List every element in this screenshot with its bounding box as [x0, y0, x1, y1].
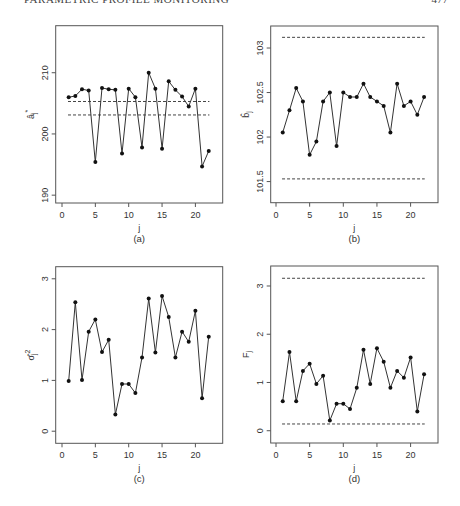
data-point — [402, 104, 406, 108]
x-tick-label: 20 — [190, 450, 200, 460]
y-tick-label: 1 — [255, 380, 265, 385]
x-axis-label: j — [352, 463, 355, 473]
data-point — [355, 95, 359, 99]
data-point — [207, 335, 211, 339]
plot-frame — [56, 267, 223, 444]
data-point — [180, 330, 184, 334]
data-point — [341, 91, 345, 95]
x-tick-label: 0 — [273, 450, 278, 460]
data-point — [167, 315, 171, 319]
x-tick-label: 5 — [93, 450, 98, 460]
data-point — [67, 379, 71, 383]
y-tick-label: 101.5 — [255, 170, 265, 193]
data-point — [133, 95, 137, 99]
y-tick-label: 3 — [40, 276, 50, 281]
data-point — [120, 382, 124, 386]
data-point — [133, 391, 137, 395]
panel-caption: (b) — [349, 233, 361, 244]
y-tick-label: 102.5 — [255, 81, 265, 104]
data-point — [147, 71, 151, 75]
data-point — [415, 113, 419, 117]
data-point — [314, 140, 318, 144]
x-tick-label: 15 — [157, 450, 167, 460]
x-tick-label: 20 — [406, 450, 416, 460]
y-tick-label: 0 — [40, 429, 50, 434]
series-line — [69, 73, 209, 167]
data-point — [73, 300, 77, 304]
y-tick-label: 190 — [40, 188, 50, 203]
data-point — [140, 356, 144, 360]
data-point — [314, 382, 318, 386]
data-point — [153, 350, 157, 354]
panel-b: 05101520101.5102102.5103j(b)b̂j — [240, 26, 438, 244]
data-point — [422, 372, 426, 376]
data-point — [113, 88, 117, 92]
data-point — [287, 350, 291, 354]
data-point — [73, 94, 77, 98]
data-point — [167, 79, 171, 83]
x-tick-label: 20 — [406, 210, 416, 220]
data-point — [335, 144, 339, 148]
data-point — [368, 382, 372, 386]
data-point — [375, 346, 379, 350]
data-point — [160, 147, 164, 151]
y-tick-label: 210 — [40, 65, 50, 80]
data-point — [382, 360, 386, 364]
x-tick-label: 0 — [273, 210, 278, 220]
data-point — [200, 164, 204, 168]
data-point — [328, 419, 332, 423]
x-tick-label: 20 — [190, 210, 200, 220]
data-point — [321, 99, 325, 103]
data-point — [93, 317, 97, 321]
data-point — [153, 87, 157, 91]
data-point — [281, 131, 285, 135]
y-axis-label: b̂j — [240, 111, 252, 118]
data-point — [301, 99, 305, 103]
data-point — [127, 382, 131, 386]
panel-caption: (a) — [133, 233, 145, 244]
data-point — [107, 338, 111, 342]
y-axis-label: Fj — [241, 351, 253, 359]
data-point — [100, 86, 104, 90]
y-tick-label: 200 — [40, 126, 50, 141]
plot-frame — [271, 266, 438, 443]
data-point — [348, 95, 352, 99]
data-point — [402, 376, 406, 380]
x-tick-label: 15 — [372, 450, 382, 460]
data-point — [308, 153, 312, 157]
panel-caption: (d) — [349, 473, 361, 484]
x-tick-label: 10 — [338, 210, 348, 220]
data-point — [140, 145, 144, 149]
data-point — [80, 87, 84, 91]
data-point — [147, 297, 151, 301]
data-point — [281, 399, 285, 403]
data-point — [348, 407, 352, 411]
y-tick-label: 102 — [255, 130, 265, 145]
data-point — [382, 104, 386, 108]
series-line — [283, 348, 424, 420]
data-point — [321, 374, 325, 378]
data-point — [361, 82, 365, 86]
data-point — [341, 402, 345, 406]
series-line — [283, 84, 424, 155]
data-point — [193, 309, 197, 313]
data-point — [180, 95, 184, 99]
data-point — [193, 87, 197, 91]
y-tick-label: 3 — [255, 283, 265, 288]
data-point — [127, 87, 131, 91]
data-point — [200, 396, 204, 400]
data-point — [368, 95, 372, 99]
data-point — [335, 402, 339, 406]
data-point — [375, 99, 379, 103]
data-point — [361, 348, 365, 352]
data-point — [301, 369, 305, 373]
plot-frame — [271, 26, 438, 203]
x-axis-label: j — [137, 463, 140, 473]
data-point — [187, 104, 191, 108]
panel-a: 05101520190200210j(a)âj* — [24, 26, 223, 244]
x-tick-label: 5 — [307, 210, 312, 220]
data-point — [87, 330, 91, 334]
data-point — [120, 152, 124, 156]
x-tick-label: 5 — [307, 450, 312, 460]
data-point — [160, 294, 164, 298]
